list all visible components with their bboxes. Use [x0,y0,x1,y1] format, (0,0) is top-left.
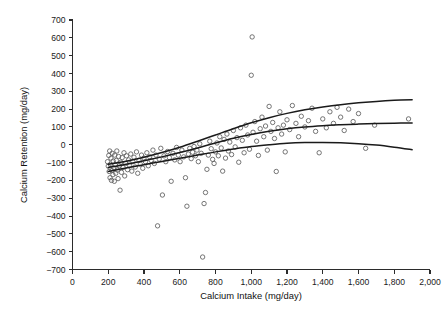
data-point [216,154,220,158]
data-point [406,117,410,121]
data-point [356,111,360,115]
data-point [122,151,126,155]
x-tick-label: 0 [70,277,75,287]
data-point [299,114,303,118]
x-tick-label: 2,000 [419,277,441,287]
x-tick-label: 1,000 [240,277,262,287]
data-point [254,139,258,143]
data-point [223,156,227,160]
regression-line-layer [108,100,412,172]
data-point [272,136,276,140]
data-point [200,255,204,259]
data-point [139,153,143,157]
data-point [285,118,289,122]
data-point [228,140,232,144]
data-point [321,117,325,121]
y-tick-label: 100 [51,122,66,132]
x-tick-label: 1,600 [348,277,370,287]
data-point [342,128,346,132]
data-point [351,119,355,123]
data-point [209,146,213,150]
data-point [202,201,206,205]
data-point [118,188,122,192]
data-point [205,167,209,171]
data-point [328,110,332,114]
y-tick-label: 500 [51,51,66,61]
y-tick-label: 300 [51,86,66,96]
data-point [237,160,241,164]
data-point [281,123,285,127]
x-tick-label: 400 [137,277,152,287]
data-point [122,174,126,178]
data-point [278,110,282,114]
data-point [296,135,300,139]
data-point [267,104,271,108]
data-point [313,129,317,133]
data-point [151,148,155,152]
data-point [196,159,200,163]
data-point [183,176,187,180]
plot-canvas: −700−600−500−400−300−200−100010020030040… [0,0,448,311]
data-point [306,118,310,122]
y-tick-label: −600 [46,247,66,257]
data-point [115,149,119,153]
y-tick-layer: −700−600−500−400−300−200−100010020030040… [46,15,72,275]
y-tick-label: −400 [46,211,66,221]
x-axis-title: Calcium Intake (mg/day) [200,290,302,301]
data-point [105,159,109,163]
data-point [346,107,350,111]
y-tick-label: −300 [46,193,66,203]
y-tick-label: 700 [51,15,66,25]
data-point [203,190,207,194]
data-point [249,73,253,77]
data-point [169,179,173,183]
x-tick-label: 600 [173,277,188,287]
x-tick-layer: 02004006008001,0001,2001,4001,6001,8002,… [70,270,441,287]
data-point [141,166,145,170]
data-point [208,139,212,143]
y-tick-label: 200 [51,104,66,114]
y-tick-label: −200 [46,175,66,185]
data-point [317,151,321,155]
data-point [240,138,244,142]
data-point [225,132,229,136]
data-point [136,171,140,175]
data-point [250,35,254,39]
data-point [134,150,138,154]
data-point [271,120,275,124]
x-tick-label: 1,200 [276,277,298,287]
data-point [155,224,159,228]
y-tick-label: 600 [51,33,66,43]
data-point [212,161,216,165]
y-tick-label: 400 [51,69,66,79]
data-point [256,153,260,157]
data-point [186,152,190,156]
y-tick-label: 0 [61,140,66,150]
data-point [145,151,149,155]
data-point [130,169,134,173]
data-point [229,152,233,156]
y-axis-title: Calcium Retention (mg/day) [18,87,29,203]
y-tick-label: −700 [46,265,66,275]
data-point [274,169,278,173]
calcium-retention-scatter-figure: −700−600−500−400−300−200−100010020030040… [0,0,448,311]
data-point [218,135,222,139]
data-point [338,115,342,119]
data-point [262,135,266,139]
data-point [290,103,294,107]
data-point [279,132,283,136]
data-point [219,146,223,150]
data-point [294,121,298,125]
data-point [283,150,287,154]
data-point [178,159,182,163]
x-tick-label: 1,800 [383,277,405,287]
data-point [258,127,262,131]
data-point [124,154,128,158]
data-point [160,193,164,197]
y-tick-label: −500 [46,229,66,239]
data-point [119,170,123,174]
data-point [116,176,120,180]
data-point [220,169,224,173]
data-point [265,148,269,152]
data-point-layer [105,35,410,259]
